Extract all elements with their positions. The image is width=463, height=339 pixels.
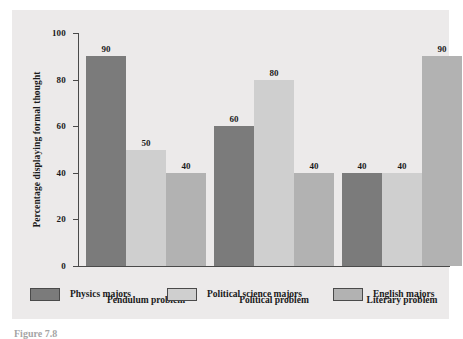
y-tick-label-60: 60 xyxy=(57,121,66,131)
bar-value-pendulum-physics: 90 xyxy=(102,44,111,54)
y-tick-label-0: 0 xyxy=(61,261,66,271)
y-tick-0: 0 xyxy=(73,266,78,267)
figure-caption: Figure 7.8 xyxy=(14,328,454,339)
chart-legend: Physics majors Political science majors … xyxy=(12,285,449,305)
legend-label-polisci: Political science majors xyxy=(207,289,302,299)
y-tick-60: 60 xyxy=(73,126,78,127)
bar-value-literary-english: 90 xyxy=(438,44,447,54)
legend-item-polisci[interactable]: Political science majors xyxy=(167,285,302,303)
bar-value-literary-physics: 40 xyxy=(358,161,367,171)
y-tick-label-80: 80 xyxy=(57,75,66,85)
chart-panel: Percentage displaying formal thought 100… xyxy=(12,10,449,319)
y-tick-label-20: 20 xyxy=(57,214,66,224)
bar-pendulum-physics[interactable]: 90 xyxy=(86,56,126,266)
legend-swatch-english-icon xyxy=(333,288,363,301)
legend-label-english: English majors xyxy=(373,289,435,299)
bar-political-polisci[interactable]: 80 xyxy=(254,80,294,266)
bar-pendulum-english[interactable]: 40 xyxy=(166,173,206,266)
bar-literary-polisci[interactable]: 40 xyxy=(382,173,422,266)
legend-item-physics[interactable]: Physics majors xyxy=(30,285,131,303)
y-tick-label-100: 100 xyxy=(52,28,66,38)
bar-pendulum-polisci[interactable]: 50 xyxy=(126,150,166,267)
plot-area: 100 80 60 40 20 0 90 50 xyxy=(78,33,448,266)
x-axis-line xyxy=(78,266,450,267)
bar-value-pendulum-english: 40 xyxy=(182,161,191,171)
y-tick-label-40: 40 xyxy=(57,168,66,178)
bar-value-literary-polisci: 40 xyxy=(398,161,407,171)
bar-value-political-physics: 60 xyxy=(230,114,239,124)
bar-political-english[interactable]: 40 xyxy=(294,173,334,266)
y-tick-40: 40 xyxy=(73,173,78,174)
y-tick-80: 80 xyxy=(73,80,78,81)
y-axis-title: Percentage displaying formal thought xyxy=(30,33,44,266)
bar-literary-physics[interactable]: 40 xyxy=(342,173,382,266)
bar-literary-english[interactable]: 90 xyxy=(422,56,462,266)
bar-value-pendulum-polisci: 50 xyxy=(142,138,151,148)
y-tick-100: 100 xyxy=(73,33,78,34)
y-tick-20: 20 xyxy=(73,219,78,220)
bar-value-political-polisci: 80 xyxy=(270,68,279,78)
bar-political-physics[interactable]: 60 xyxy=(214,126,254,266)
legend-swatch-polisci-icon xyxy=(167,288,197,301)
legend-swatch-physics-icon xyxy=(30,288,60,301)
y-axis-line xyxy=(78,33,79,266)
legend-label-physics: Physics majors xyxy=(70,289,131,299)
legend-item-english[interactable]: English majors xyxy=(333,285,435,303)
bar-value-political-english: 40 xyxy=(310,161,319,171)
